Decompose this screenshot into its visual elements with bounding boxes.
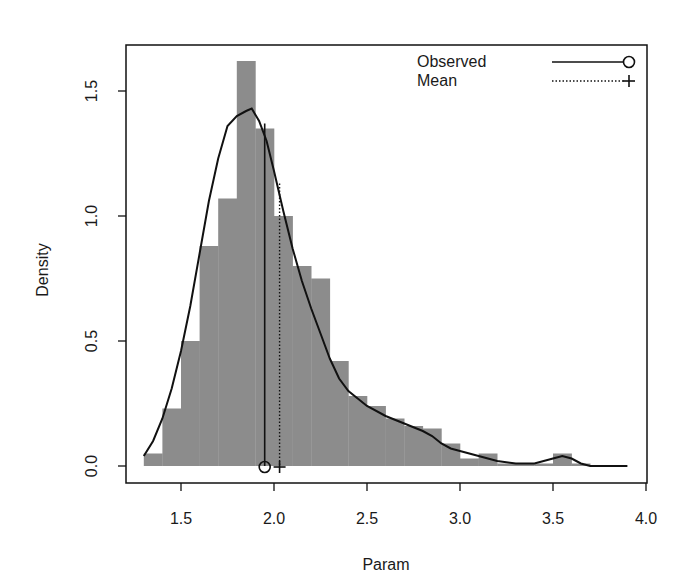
- histogram-bar: [460, 459, 479, 467]
- x-tick-label: 2.0: [263, 510, 285, 527]
- x-tick-label: 3.0: [449, 510, 471, 527]
- x-tick-label: 4.0: [635, 510, 657, 527]
- histogram-bar: [181, 341, 200, 466]
- histogram-bar: [274, 216, 293, 466]
- histogram-bar: [311, 279, 330, 467]
- y-tick-label: 0.5: [83, 330, 100, 352]
- legend: Observed Mean: [417, 53, 635, 89]
- x-axis: 1.52.02.53.03.54.0: [170, 483, 657, 527]
- histogram-bar: [237, 61, 256, 466]
- y-axis: 0.00.51.01.5: [83, 80, 126, 477]
- legend-label-observed: Observed: [417, 53, 486, 70]
- legend-circle-icon: [624, 57, 635, 68]
- y-tick-label: 1.5: [83, 80, 100, 102]
- x-axis-label: Param: [362, 556, 409, 573]
- histogram-bar: [404, 426, 423, 466]
- y-axis-label: Density: [34, 243, 51, 296]
- histogram-bar: [144, 454, 163, 467]
- y-tick-label: 1.0: [83, 205, 100, 227]
- histogram-bar: [293, 266, 312, 466]
- histogram-bar: [162, 409, 181, 467]
- histogram-bar: [348, 396, 367, 466]
- histogram-bar: [386, 419, 405, 467]
- legend-plus-icon: [623, 75, 635, 87]
- histogram-bar: [218, 199, 237, 467]
- x-tick-label: 2.5: [356, 510, 378, 527]
- x-tick-label: 1.5: [170, 510, 192, 527]
- x-tick-label: 3.5: [542, 510, 564, 527]
- histogram-bar: [441, 444, 460, 467]
- histogram-bar: [534, 464, 553, 467]
- histogram-bar: [423, 429, 442, 467]
- histogram-bar: [200, 246, 219, 466]
- y-tick-label: 0.0: [83, 455, 100, 477]
- histogram-chart: 1.52.02.53.03.54.0 0.00.51.01.5 Param De…: [0, 0, 698, 584]
- legend-label-mean: Mean: [417, 72, 457, 89]
